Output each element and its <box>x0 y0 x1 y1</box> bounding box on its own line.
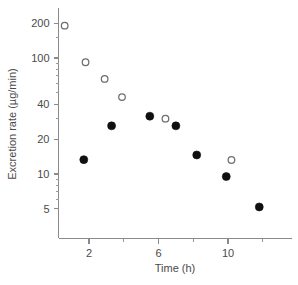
y-axis-group: 2001004020105 <box>31 8 58 238</box>
y-axis-tick-labels: 2001004020105 <box>31 17 49 215</box>
data-point-filled <box>193 151 201 159</box>
x-axis-group: 2610 <box>59 239 293 259</box>
chart-figure: 2001004020105 2610 Time (h) Excretion ra… <box>0 0 298 285</box>
data-point-open <box>119 94 126 101</box>
y-axis-major-ticks <box>54 23 59 209</box>
data-point-filled <box>222 173 230 181</box>
y-tick-label-200: 200 <box>31 17 49 29</box>
data-point-open <box>228 157 235 164</box>
data-point-filled <box>172 122 180 130</box>
data-point-open <box>61 22 68 29</box>
y-tick-label-20: 20 <box>37 133 49 145</box>
y-tick-label-10: 10 <box>37 168 49 180</box>
y-axis-title: Excretion rate (µg/min) <box>6 68 18 179</box>
data-point-filled <box>146 112 154 120</box>
y-tick-label-5: 5 <box>43 203 49 215</box>
data-point-filled <box>108 122 116 130</box>
x-tick-label-6: 6 <box>155 247 161 259</box>
data-point-filled <box>80 156 88 164</box>
x-axis-major-ticks <box>89 239 228 244</box>
x-tick-label-2: 2 <box>86 247 92 259</box>
y-tick-label-100: 100 <box>31 52 49 64</box>
scatter-plot-svg: 2001004020105 2610 Time (h) Excretion ra… <box>0 0 298 285</box>
y-tick-label-40: 40 <box>37 98 49 110</box>
x-tick-label-10: 10 <box>222 247 234 259</box>
caption-strip <box>0 271 298 285</box>
series-filled-circles <box>80 112 263 211</box>
x-axis-tick-labels: 2610 <box>86 247 234 259</box>
data-point-open <box>101 76 108 83</box>
data-series-layer <box>61 22 263 211</box>
data-point-open <box>162 115 169 122</box>
data-point-filled <box>255 203 263 211</box>
data-point-open <box>82 59 89 66</box>
series-open-circles <box>61 22 234 163</box>
